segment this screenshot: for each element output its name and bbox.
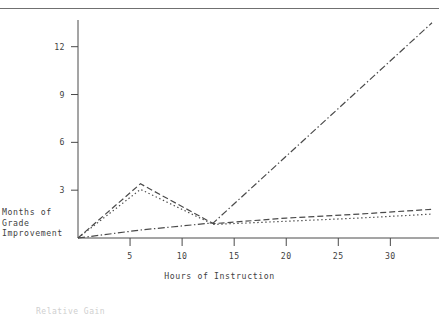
y-axis-title: Months ofGradeImprovement	[2, 207, 63, 239]
x-axis-tick-label: 20	[275, 251, 297, 261]
y-axis-tick-label: 6	[39, 137, 65, 147]
x-axis-tick-label: 30	[379, 251, 401, 261]
x-axis-tick-label: 5	[119, 251, 141, 261]
x-axis-tick-label: 15	[223, 251, 245, 261]
y-axis-tick-label: 9	[39, 90, 65, 100]
x-axis-tick-label: 25	[327, 251, 349, 261]
figure-footer-text: Relative Gain	[36, 307, 105, 317]
y-axis-tick-label: 3	[39, 185, 65, 195]
y-axis-title-line-3: Improvement	[2, 228, 63, 238]
line-chart-plot	[0, 0, 439, 317]
series-line-dotted-series	[78, 189, 432, 238]
y-axis-title-line-2: Grade	[2, 218, 30, 228]
x-axis-title: Hours of Instruction	[0, 271, 439, 282]
y-axis-tick-label: 12	[39, 42, 65, 52]
series-line-dash-dot-series	[78, 23, 432, 238]
x-axis-tick-label: 10	[171, 251, 193, 261]
figure-canvas: Months ofGradeImprovement Hours of Instr…	[0, 0, 439, 317]
y-axis-title-line-1: Months of	[2, 207, 52, 217]
series-line-dashed-series	[78, 184, 432, 238]
